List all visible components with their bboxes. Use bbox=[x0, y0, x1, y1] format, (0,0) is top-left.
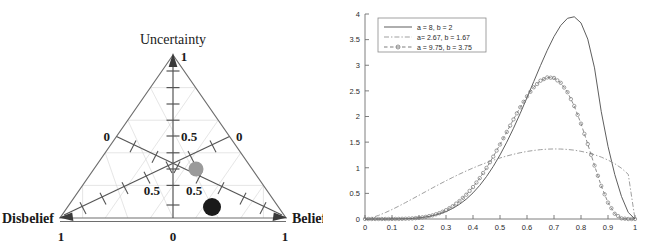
beta-pdf-chart-panel: 00.511.522.533.5400.10.20.30.40.50.60.70… bbox=[323, 0, 646, 249]
y-tick-label: 2 bbox=[356, 112, 360, 121]
series-marker bbox=[539, 79, 542, 82]
uncertainty-vertex-value: 1 bbox=[181, 49, 188, 64]
belief-vertex-label: Belief bbox=[292, 211, 323, 226]
black-opinion-point[interactable] bbox=[203, 198, 221, 216]
series-marker bbox=[492, 155, 495, 158]
legend-label-0: a = 8, b = 2 bbox=[417, 24, 453, 31]
x-tick-label: 0.2 bbox=[414, 223, 424, 232]
ternary-plot-svg: Uncertainty 1 Disbelief 1 Belief 1 0 0 0… bbox=[0, 0, 323, 249]
gray-opinion-point[interactable] bbox=[189, 162, 204, 177]
disbelief-half-label: 0.5 bbox=[144, 183, 161, 198]
x-tick-label: 0.3 bbox=[441, 223, 451, 232]
x-tick-label: 0.9 bbox=[603, 223, 613, 232]
belief-vertex-value: 1 bbox=[282, 229, 289, 244]
y-tick-label: 1.5 bbox=[350, 138, 360, 147]
x-tick-label: 1 bbox=[633, 223, 637, 232]
belief-half-label: 0.5 bbox=[186, 183, 203, 198]
series-line-2 bbox=[365, 77, 635, 219]
y-tick-label: 0 bbox=[356, 215, 360, 224]
legend-label-1: a= 2.67, b = 1.67 bbox=[417, 34, 470, 41]
base-center-value: 0 bbox=[170, 229, 177, 244]
series-marker bbox=[471, 185, 474, 188]
series-marker bbox=[512, 118, 515, 121]
series-marker bbox=[454, 202, 457, 205]
y-tick-label: 4 bbox=[356, 10, 360, 19]
x-tick-label: 0.5 bbox=[495, 223, 505, 232]
series-marker bbox=[573, 104, 576, 107]
series-marker bbox=[465, 193, 468, 196]
uncertainty-half-label: 0.5 bbox=[181, 129, 198, 144]
y-tick-label: 1 bbox=[356, 164, 360, 173]
y-tick-label: 3 bbox=[356, 61, 360, 70]
chart-legend: a = 8, b = 2a= 2.67, b = 1.67a = 9.75, b… bbox=[378, 18, 486, 52]
series-marker bbox=[495, 149, 498, 152]
uncertainty-vertex-label: Uncertainty bbox=[140, 32, 206, 47]
x-tick-label: 0.8 bbox=[576, 223, 586, 232]
series-marker bbox=[616, 214, 619, 217]
series-marker bbox=[535, 82, 538, 85]
series-marker bbox=[556, 79, 559, 82]
ternary-plot-panel: Uncertainty 1 Disbelief 1 Belief 1 0 0 0… bbox=[0, 0, 323, 249]
series-marker bbox=[569, 97, 572, 100]
y-tick-label: 3.5 bbox=[350, 35, 360, 44]
figure-container: Uncertainty 1 Disbelief 1 Belief 1 0 0 0… bbox=[0, 0, 646, 249]
disbelief-axis-zero-label: 0 bbox=[236, 129, 243, 144]
legend-label-2: a = 9.75, b = 3.75 bbox=[417, 44, 472, 51]
series-marker bbox=[475, 181, 478, 184]
series-marker bbox=[515, 112, 518, 115]
disbelief-vertex-label: Disbelief bbox=[2, 211, 54, 226]
disbelief-vertex-value: 1 bbox=[58, 229, 65, 244]
x-tick-label: 0 bbox=[363, 223, 367, 232]
x-tick-label: 0.4 bbox=[468, 223, 478, 232]
uncertainty-axis bbox=[167, 53, 180, 218]
x-tick-label: 0.1 bbox=[387, 223, 397, 232]
belief-axis-zero-label: 0 bbox=[104, 129, 111, 144]
y-tick-label: 2.5 bbox=[350, 87, 360, 96]
y-tick-label: 0.5 bbox=[350, 189, 360, 198]
x-tick-label: 0.7 bbox=[549, 223, 559, 232]
series-line-1 bbox=[365, 149, 635, 219]
series-marker bbox=[620, 217, 623, 220]
series-marker bbox=[508, 124, 511, 127]
beta-pdf-chart-svg: 00.511.522.533.5400.10.20.30.40.50.60.70… bbox=[323, 0, 646, 249]
x-tick-label: 0.6 bbox=[522, 223, 532, 232]
series-marker bbox=[468, 189, 471, 192]
